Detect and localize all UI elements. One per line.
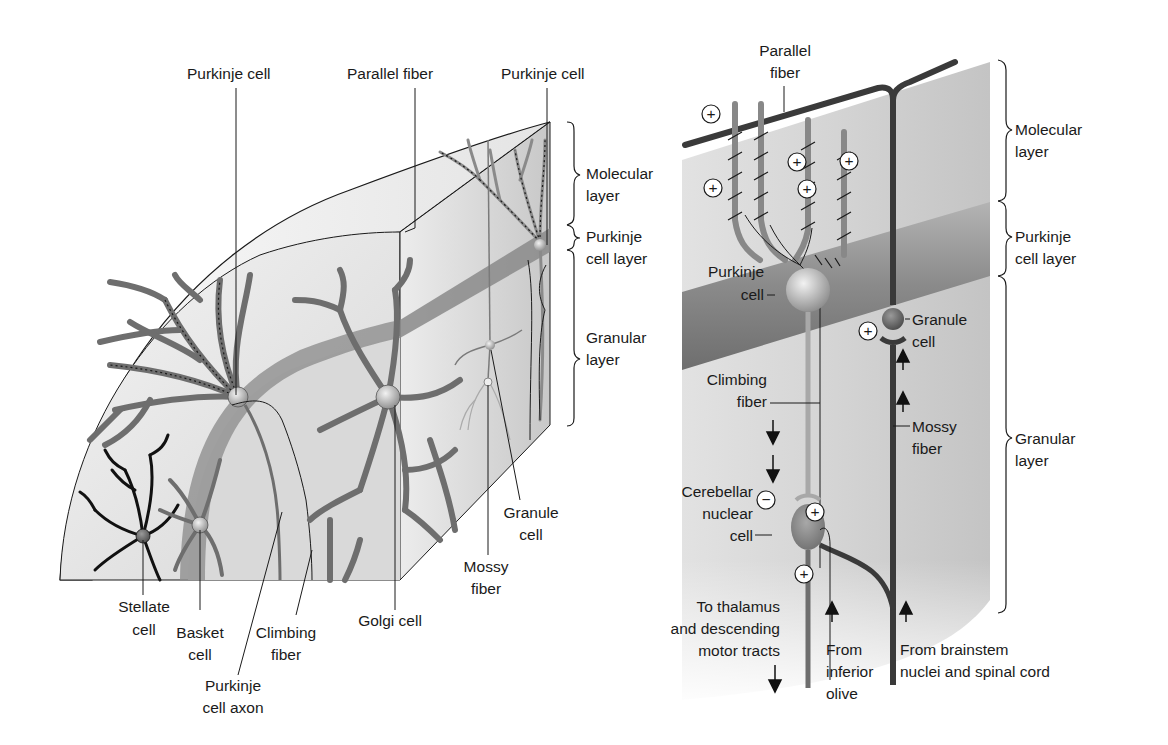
golgi-soma	[376, 385, 400, 409]
label-cerebellar-2: nuclear	[660, 504, 753, 523]
label-granular-right-1: Granular	[1015, 429, 1075, 448]
excitatory-sign-1: +	[702, 105, 720, 123]
label-thalamus-1: To thalamus	[640, 597, 780, 616]
mossy-rosette-side	[484, 378, 492, 386]
label-granule-left-2: cell	[494, 525, 568, 544]
label-climbing-left-1: Climbing	[248, 623, 324, 642]
label-golgi-cell: Golgi cell	[345, 611, 435, 630]
label-mossy-right-2: fiber	[912, 439, 942, 458]
label-stellate-1: Stellate	[106, 597, 182, 616]
label-mossy-left-1: Mossy	[454, 557, 518, 576]
label-purkinje-layer-right-2: cell layer	[1015, 249, 1076, 268]
svg-text:−: −	[761, 491, 770, 508]
label-olive-3: olive	[826, 684, 858, 703]
svg-text:+: +	[863, 322, 872, 339]
label-purkinje-cell-top-right: Purkinje cell	[501, 64, 585, 83]
label-climbing-right-2: fiber	[680, 392, 767, 411]
label-purkinje-axon-2: cell axon	[193, 698, 273, 717]
label-brainstem-2: nuclei and spinal cord	[900, 662, 1050, 681]
svg-text:+: +	[708, 179, 717, 196]
svg-text:+: +	[844, 152, 853, 169]
label-purkinje-layer-right-1: Purkinje	[1015, 227, 1071, 246]
label-olive-1: From	[826, 640, 862, 659]
purkinje-soma-left	[228, 387, 248, 407]
left-layer-braces	[567, 122, 580, 426]
label-mossy-right-1: Mossy	[912, 417, 957, 436]
label-cerebellar-3: cell	[660, 526, 753, 545]
svg-text:+: +	[799, 565, 808, 582]
excitatory-sign-2: +	[704, 179, 722, 197]
granule-soma-side	[485, 340, 495, 350]
granule-soma-right	[882, 308, 904, 330]
label-thalamus-3: motor tracts	[640, 641, 780, 660]
label-olive-2: inferior	[826, 662, 873, 681]
label-purkinje-layer-left-2: cell layer	[586, 249, 647, 268]
cerebellum-figure: + + + + + + − + +	[0, 0, 1168, 745]
label-purkinje-cell-top-left: Purkinje cell	[187, 64, 271, 83]
label-basket-1: Basket	[166, 623, 234, 642]
label-purkinje-axon-1: Purkinje	[193, 676, 273, 695]
label-climbing-left-2: fiber	[248, 645, 324, 664]
label-parallel-right-2: fiber	[750, 63, 820, 82]
label-granule-left-1: Granule	[494, 503, 568, 522]
excitatory-sign-5: +	[840, 152, 858, 170]
label-granule-right-1: Granule	[912, 310, 967, 329]
purkinje-soma-side	[534, 239, 546, 251]
excitatory-sign-4: +	[798, 180, 816, 198]
label-purkinje-right-1: Purkinje	[680, 262, 764, 281]
label-basket-2: cell	[166, 645, 234, 664]
excitatory-sign-6: +	[859, 322, 877, 340]
label-parallel-fiber-left: Parallel fiber	[347, 64, 433, 83]
excitatory-sign-8: +	[795, 565, 813, 583]
inhibitory-sign: −	[757, 491, 775, 509]
label-parallel-right-1: Parallel	[750, 41, 820, 60]
label-climbing-right-1: Climbing	[680, 370, 767, 389]
svg-text:+: +	[706, 105, 715, 122]
label-molecular-right-2: layer	[1015, 142, 1049, 161]
label-purkinje-layer-left-1: Purkinje	[586, 227, 642, 246]
svg-text:+: +	[802, 180, 811, 197]
svg-text:+: +	[792, 153, 801, 170]
label-molecular-layer-left-1: Molecular	[586, 164, 653, 183]
label-granule-right-2: cell	[912, 332, 935, 351]
label-molecular-layer-left-2: layer	[586, 186, 620, 205]
svg-text:+: +	[810, 503, 819, 520]
excitatory-sign-3: +	[788, 153, 806, 171]
label-granular-right-2: layer	[1015, 451, 1049, 470]
label-mossy-left-2: fiber	[454, 579, 518, 598]
purkinje-soma-right	[786, 268, 830, 312]
label-cerebellar-1: Cerebellar	[660, 482, 753, 501]
label-purkinje-right-2: cell	[680, 285, 764, 304]
label-molecular-right-1: Molecular	[1015, 120, 1082, 139]
label-brainstem-1: From brainstem	[900, 640, 1009, 659]
label-granular-layer-left-2: layer	[586, 350, 620, 369]
excitatory-sign-7: +	[806, 503, 824, 521]
right-layer-braces	[998, 60, 1012, 613]
label-granular-layer-left-1: Granular	[586, 328, 646, 347]
label-thalamus-2: and descending	[640, 619, 780, 638]
